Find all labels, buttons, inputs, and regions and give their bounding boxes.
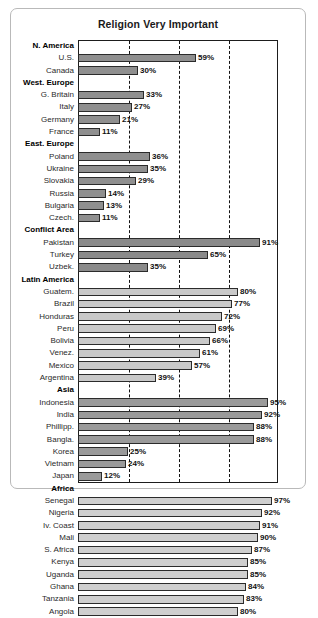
bar-row: Iv. Coast91% <box>11 520 305 532</box>
bar-value-label: 95% <box>268 397 286 409</box>
bar-row: Bolivia66% <box>11 335 305 347</box>
group-header-row: N. America <box>11 40 305 52</box>
country-label: Korea <box>11 446 77 458</box>
bar-track: 12% <box>78 470 278 482</box>
bar-row: G. Britain33% <box>11 89 305 101</box>
bar <box>78 128 100 137</box>
bar-value-label: 91% <box>260 520 278 532</box>
bar-value-label: 77% <box>232 298 250 310</box>
bar-value-label: 11% <box>100 212 118 224</box>
bar-value-label: 25% <box>128 446 146 458</box>
bar-value-label: 83% <box>244 593 262 605</box>
bar-row: Japan12% <box>11 470 305 482</box>
country-label: France <box>11 126 77 138</box>
bar-value-label: 39% <box>156 372 174 384</box>
bar-track: 88% <box>78 434 278 446</box>
bar-row: Peru69% <box>11 323 305 335</box>
country-label: Mali <box>11 532 77 544</box>
bar-track: 21% <box>78 114 278 126</box>
bar-row: U.S.59% <box>11 52 305 64</box>
country-label: U.S. <box>11 52 77 64</box>
bar-track: 39% <box>78 372 278 384</box>
bar <box>78 337 210 346</box>
bar-track: 57% <box>78 360 278 372</box>
country-label: Angola <box>11 606 77 618</box>
bar-row: Argentina39% <box>11 372 305 384</box>
group-header-row: West. Europe <box>11 77 305 89</box>
country-label: S. Africa <box>11 544 77 556</box>
bar <box>78 583 246 592</box>
country-label: Argentina <box>11 372 77 384</box>
bar-track: 36% <box>78 151 278 163</box>
country-label: Guatem. <box>11 286 77 298</box>
bar-row: Mexico57% <box>11 360 305 372</box>
bar-track: 91% <box>78 520 278 532</box>
bar-row: Germany21% <box>11 114 305 126</box>
bar-row: Venez.61% <box>11 347 305 359</box>
bar-track: 88% <box>78 421 278 433</box>
country-label: Italy <box>11 101 77 113</box>
country-label: G. Britain <box>11 89 77 101</box>
bar <box>78 263 148 272</box>
bar-value-label: 85% <box>248 569 266 581</box>
bar <box>78 189 106 198</box>
bar-value-label: 57% <box>192 360 210 372</box>
bar <box>78 152 150 161</box>
bar-track: 69% <box>78 323 278 335</box>
country-label: Brazil <box>11 298 77 310</box>
bar-row: S. Africa87% <box>11 544 305 556</box>
bar-value-label: 30% <box>138 65 156 77</box>
bar-row: India92% <box>11 409 305 421</box>
bar-track: 13% <box>78 200 278 212</box>
bar-row: Ghana84% <box>11 581 305 593</box>
bar-track: 25% <box>78 446 278 458</box>
bar-value-label: 80% <box>238 286 256 298</box>
country-label: Venez. <box>11 347 77 359</box>
bar <box>78 411 262 420</box>
bar-value-label: 13% <box>104 200 122 212</box>
bar-track: 59% <box>78 52 278 64</box>
country-label: Kenya <box>11 556 77 568</box>
bar-row: Vietnam24% <box>11 458 305 470</box>
group-label: Africa <box>11 483 77 495</box>
bar-track: 84% <box>78 581 278 593</box>
bar-value-label: 88% <box>254 421 272 433</box>
bar-track: 80% <box>78 606 278 618</box>
bar-track: 95% <box>78 397 278 409</box>
bar <box>78 546 252 555</box>
bar-value-label: 29% <box>136 175 154 187</box>
country-label: Bolivia <box>11 335 77 347</box>
country-label: Uzbek. <box>11 261 77 273</box>
bar-value-label: 61% <box>200 347 218 359</box>
bar <box>78 349 200 358</box>
bar-row: Guatem.80% <box>11 286 305 298</box>
bar-row: Honduras72% <box>11 311 305 323</box>
bar-track: 85% <box>78 569 278 581</box>
country-label: Vietnam <box>11 458 77 470</box>
country-label: Russia <box>11 188 77 200</box>
bar-value-label: 84% <box>246 581 264 593</box>
bar-value-label: 72% <box>222 311 240 323</box>
group-label: Latin America <box>11 274 77 286</box>
bar <box>78 300 232 309</box>
group-label: Conflict Area <box>11 224 77 236</box>
bar-row: Indonesia95% <box>11 397 305 409</box>
bar-value-label: 80% <box>238 606 256 618</box>
bar-track: 90% <box>78 532 278 544</box>
chart-rows: N. AmericaU.S.59%Canada30%West. EuropeG.… <box>11 40 305 618</box>
bar <box>78 472 102 481</box>
group-label: Asia <box>11 384 77 396</box>
bar <box>78 533 258 542</box>
bar-track: 72% <box>78 311 278 323</box>
country-label: Germany <box>11 114 77 126</box>
bar <box>78 570 248 579</box>
country-label: Peru <box>11 323 77 335</box>
bar <box>78 460 126 469</box>
bar-track: 87% <box>78 544 278 556</box>
bar <box>78 447 128 456</box>
country-label: Tanzania <box>11 593 77 605</box>
country-label: Uganda <box>11 569 77 581</box>
chart-outer-frame: Religion Very Important N. AmericaU.S.59… <box>10 8 306 489</box>
bar <box>78 103 132 112</box>
bar <box>78 509 262 518</box>
